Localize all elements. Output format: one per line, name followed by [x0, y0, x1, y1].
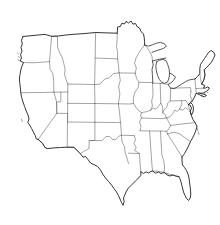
map-background — [0, 0, 220, 225]
map-canvas — [0, 0, 220, 225]
us-states-outline-map — [0, 0, 220, 225]
